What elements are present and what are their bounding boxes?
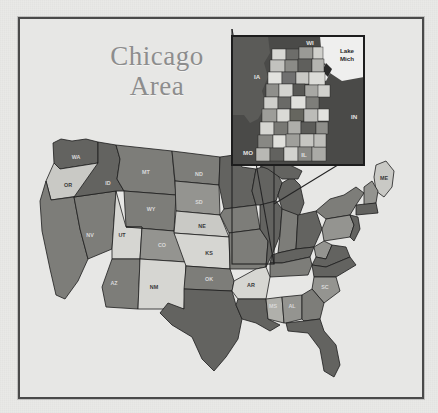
- map-frame-inner: Chicago Area: [20, 19, 422, 397]
- state-label-OR: OR: [64, 182, 72, 188]
- inset-label-IN: IN: [351, 113, 358, 120]
- page-title: Chicago Area: [72, 41, 242, 101]
- state-AZ[interactable]: [102, 259, 140, 309]
- inset-label-lake-mich-line1: Lake: [340, 47, 355, 54]
- state-label-OK: OK: [205, 276, 213, 282]
- state-PA[interactable]: [322, 215, 354, 241]
- state-label-NE: NE: [198, 223, 206, 229]
- state-FL[interactable]: [286, 319, 340, 377]
- state-MS[interactable]: [266, 297, 284, 323]
- state-ND[interactable]: [172, 151, 220, 185]
- state-label-NV: NV: [86, 232, 94, 238]
- inset-label-MO: MO: [243, 149, 253, 156]
- state-MO[interactable]: [229, 229, 268, 269]
- state-label-CO: CO: [158, 242, 166, 248]
- page-background: Chicago Area: [0, 0, 438, 413]
- inset-label-IL: IL: [301, 151, 307, 158]
- state-SD[interactable]: [175, 181, 220, 215]
- state-label-AL: AL: [288, 303, 296, 309]
- us-map-group: WA OR ID MT ND SD NE WY NV UT CO KS AZ N…: [40, 139, 394, 377]
- state-label-ME: ME: [380, 175, 388, 181]
- state-label-WA: WA: [72, 154, 81, 160]
- state-OH[interactable]: [296, 211, 322, 249]
- state-label-SD: SD: [195, 199, 203, 205]
- inset-label-lake-mich-line2: Mich: [340, 55, 354, 62]
- state-label-WY: WY: [147, 206, 156, 212]
- state-label-NM: NM: [150, 284, 159, 290]
- state-label-AR: AR: [247, 282, 255, 288]
- state-label-MT: MT: [142, 169, 150, 175]
- inset-label-IA: IA: [254, 73, 261, 80]
- state-label-ID: ID: [105, 180, 110, 186]
- map-frame: Chicago Area: [18, 17, 424, 399]
- state-label-UT: UT: [118, 232, 126, 238]
- inset-label-WI: WI: [306, 39, 314, 46]
- state-AL[interactable]: [282, 295, 302, 323]
- state-NM[interactable]: [138, 259, 186, 309]
- state-label-MS: MS: [269, 303, 277, 309]
- state-label-AZ: AZ: [110, 280, 118, 286]
- state-label-SC: SC: [321, 284, 329, 290]
- state-label-KS: KS: [205, 250, 213, 256]
- state-label-ND: ND: [195, 171, 203, 177]
- state-MA-CT-RI[interactable]: [356, 203, 378, 215]
- inset-group[interactable]: IA WI Lake Mich IN MO IL: [232, 36, 364, 165]
